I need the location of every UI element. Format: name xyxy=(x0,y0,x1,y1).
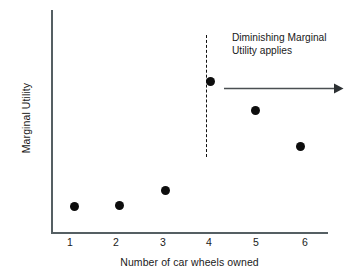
x-tick-label-1: 1 xyxy=(58,236,82,248)
x-tick-label-6: 6 xyxy=(293,236,317,248)
threshold-dashed-line xyxy=(206,35,207,157)
x-tick-label-4: 4 xyxy=(197,236,221,248)
data-point xyxy=(251,106,260,115)
x-axis-title: Number of car wheels owned xyxy=(51,256,328,268)
x-tick-label-2: 2 xyxy=(104,236,128,248)
data-point xyxy=(115,201,124,210)
x-axis-line xyxy=(51,232,328,234)
annotation-text: Diminishing Marginal Utility applies xyxy=(232,31,359,57)
direction-arrow-icon xyxy=(224,80,344,97)
annotation-line-2: Utility applies xyxy=(232,44,359,57)
y-axis-title: Marginal Utility xyxy=(20,58,32,178)
data-point xyxy=(161,186,170,195)
data-point xyxy=(70,202,79,211)
annotation-line-1: Diminishing Marginal xyxy=(232,31,359,44)
data-point xyxy=(206,77,215,86)
x-tick-label-3: 3 xyxy=(151,236,175,248)
y-axis-line xyxy=(51,10,53,234)
x-tick-label-5: 5 xyxy=(244,236,268,248)
chart-figure: Marginal Utility Number of car wheels ow… xyxy=(0,0,359,277)
data-point xyxy=(296,142,305,151)
